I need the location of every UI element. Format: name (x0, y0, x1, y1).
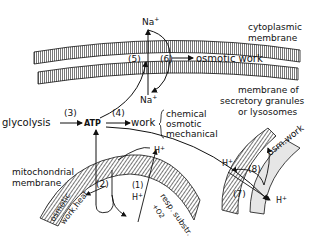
label-step6: (6) (160, 54, 173, 64)
label-work: work (131, 117, 155, 128)
label-step8: (8) (248, 164, 261, 174)
energy-transformation-diagram: Na+ Na+ (5) (6) osmotic work cytoplasmic… (0, 0, 320, 241)
brace-icon (159, 110, 164, 138)
label-membrane-of: membrane of (238, 85, 300, 95)
h-out-arrow (112, 195, 126, 216)
label-membrane-cyto: membrane (248, 33, 298, 43)
label-mechanical: mechanical (166, 129, 218, 139)
label-cytoplasmic: cytoplasmic (248, 22, 302, 32)
label-secretory-granules: secretory granules (220, 96, 305, 106)
label-na-bottom: Na+ (140, 93, 157, 105)
label-glycolysis: glycolysis (2, 117, 51, 128)
label-na-top: Na+ (142, 15, 159, 27)
label-step3: (3) (64, 108, 77, 118)
label-step4: (4) (112, 108, 125, 118)
label-step5: (5) (128, 54, 141, 64)
label-h-plus-1: H+ (154, 144, 165, 155)
label-step2: (2) (96, 179, 109, 189)
label-h-plus-4: H+ (276, 194, 287, 205)
label-chemical: chemical (166, 109, 206, 119)
label-or-lysosomes: or lysosomes (238, 107, 298, 117)
label-atp: ATP (84, 119, 101, 128)
label-h-plus-2: H+ (132, 191, 143, 202)
label-step7: (7) (233, 189, 246, 199)
label-osmotic: osmotic (166, 119, 201, 129)
diagram-canvas: Na+ Na+ (5) (6) osmotic work cytoplasmic… (0, 0, 320, 241)
label-step1: (1) (132, 181, 143, 190)
label-osmotic-work: osmotic work (196, 53, 263, 64)
label-o2: +O2 (150, 203, 166, 221)
label-membrane-mito: membrane (12, 178, 62, 188)
label-mitochondrial: mitochondrial (12, 167, 74, 177)
